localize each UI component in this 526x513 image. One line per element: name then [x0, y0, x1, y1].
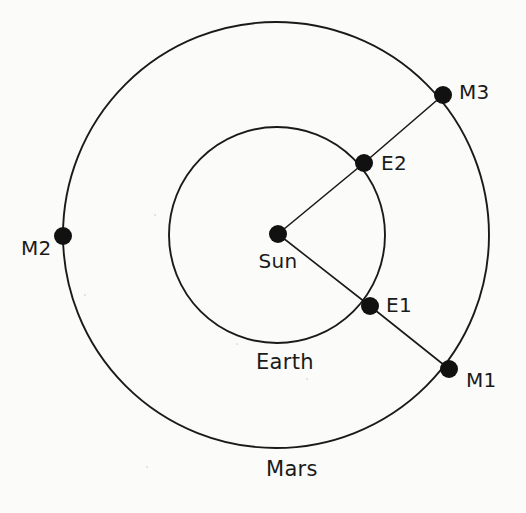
e2-marker: [355, 154, 373, 172]
e2-label: E2: [381, 153, 407, 173]
m3-label: M3: [459, 82, 490, 102]
paper-speck: [306, 378, 308, 380]
paper-speck: [84, 294, 86, 296]
paper-speck: [154, 214, 156, 216]
m3-marker: [434, 86, 452, 104]
m2-label: M2: [21, 238, 52, 258]
m2-marker: [54, 227, 72, 245]
paper-speck: [146, 466, 148, 468]
sight-lines: [278, 95, 449, 369]
m1-label: M1: [466, 370, 497, 390]
sun-label: Sun: [259, 251, 298, 271]
m1-marker: [440, 360, 458, 378]
sun-marker: [269, 225, 287, 243]
earth-orbit-label: Earth: [256, 352, 314, 373]
e1-marker: [361, 297, 379, 315]
mars-orbit-label: Mars: [266, 459, 318, 480]
orbital-diagram-figure: SunE1E2M1M2M3EarthMars: [0, 0, 526, 513]
e1-label: E1: [386, 295, 412, 315]
paper-speck: [236, 343, 238, 345]
